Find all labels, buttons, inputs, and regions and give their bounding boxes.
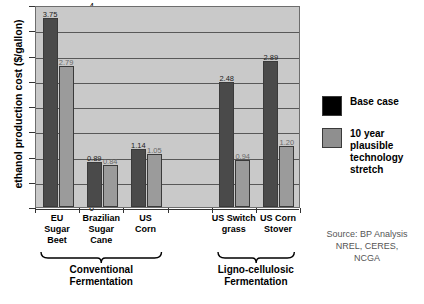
category-label-us-corn-stover: US CornStover [248,213,308,235]
legend-label-line: plausible [350,140,393,151]
gridline [36,108,299,109]
source-line: NCGA [354,253,380,263]
category-label-us-corn: USCorn [115,213,175,235]
gridline [36,83,299,84]
bar-value-label: 3.75 [38,10,63,19]
category-label-line: US [139,213,152,223]
bar [235,160,250,207]
source-line: Source: BP Analysis [327,229,408,239]
category-label-line: Stover [264,224,292,234]
chart-container: ethanol production cost ($/gallon) 43.53… [0,0,424,304]
gridline [36,184,299,185]
source-line: NREL, CERES, [336,241,399,251]
y-axis-title: ethanol production cost ($/gallon) [12,0,24,214]
group-bracket-conventional [39,252,164,263]
category-label-line: Corn [135,224,156,234]
category-label-line: Sugar [44,224,70,234]
group-bracket-ligno-cellulosic [216,252,296,263]
gridline [36,32,299,33]
plot-inner: 3.752.790.890.841.141.052.480.942.891.20 [36,7,299,207]
bar [263,61,278,207]
bar-value-label: 2.48 [214,74,239,83]
legend-item-base-case: Base case [322,96,422,116]
category-label-line: Beet [47,235,67,245]
category-label-line: Sugar [88,224,114,234]
bar [219,82,234,207]
bar-value-label: 0.94 [230,152,255,161]
group-label-line: Conventional [70,264,133,275]
plot-area: 3.752.790.890.841.141.052.480.942.891.20 [35,6,300,208]
legend-swatch-ten-year-stretch-icon [322,128,342,148]
source-note: Source: BP Analysis NREL, CERES, NCGA [312,228,422,264]
legend-item-ten-year-stretch: 10 year plausible technology stretch [322,128,422,176]
legend-label-line: technology [350,152,403,163]
bar-value-label: 2.79 [54,58,79,67]
legend-label-line: stretch [350,164,383,175]
legend-swatch-base-case-icon [322,96,342,116]
legend-label-line: 10 year [350,128,384,139]
bar [87,162,102,207]
bar [59,66,74,207]
bar [103,165,118,207]
bar [279,146,294,207]
group-label-ligno-cellulosic: Ligno-cellulosicFermentation [191,264,321,288]
group-label-line: Ligno-cellulosic [218,264,294,275]
bar-value-label: 1.20 [274,138,299,147]
category-label-line: US Corn [260,213,296,223]
gridline [36,159,299,160]
category-label-line: grass [222,224,246,234]
category-label-line: EU [51,213,64,223]
legend-label-base-case: Base case [350,96,399,108]
gridline [36,133,299,134]
bar-value-label: 0.84 [98,157,123,166]
category-label-line: Cane [90,235,112,245]
group-label-conventional: ConventionalFermentation [36,264,166,288]
legend: Base case 10 year plausible technology s… [322,96,422,188]
bar-value-label: 2.89 [258,53,283,62]
group-label-line: Fermentation [70,276,133,287]
bar [131,149,146,207]
group-label-line: Fermentation [224,276,287,287]
bar [147,154,162,207]
legend-label-ten-year-stretch: 10 year plausible technology stretch [350,128,403,176]
bar [43,18,58,207]
bar-value-label: 1.05 [142,146,167,155]
category-label-line: Brazilian [82,213,120,223]
